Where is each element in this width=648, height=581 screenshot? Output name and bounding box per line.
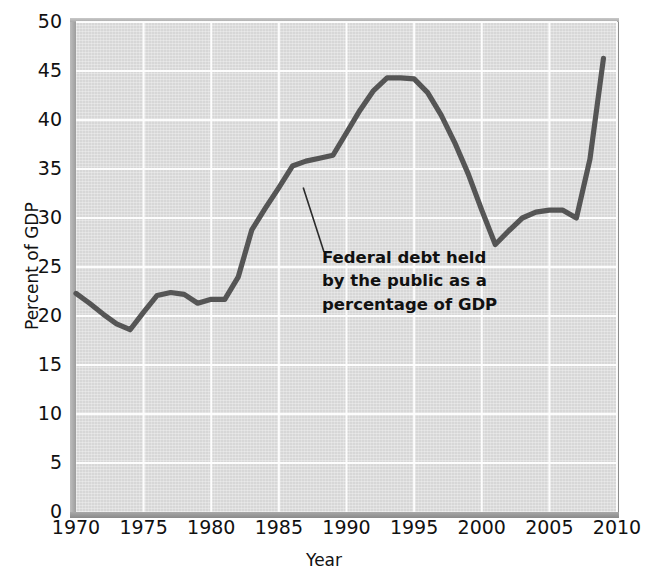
y-tick-label: 40 bbox=[0, 110, 62, 129]
x-tick-label: 2010 bbox=[577, 518, 648, 537]
chart-figure: 50454035302520151050 1970197519801985199… bbox=[0, 0, 648, 581]
annotation-line-2: by the public as a bbox=[322, 269, 537, 292]
y-tick-label: 10 bbox=[0, 404, 62, 423]
annotation-leader-line bbox=[303, 188, 324, 252]
x-axis-label: Year bbox=[0, 550, 648, 570]
y-axis-label: Percent of GDP bbox=[22, 202, 42, 330]
y-tick-label: 50 bbox=[0, 12, 62, 31]
y-tick-label: 35 bbox=[0, 159, 62, 178]
annotation-line-1: Federal debt held bbox=[322, 246, 537, 269]
y-tick-label: 45 bbox=[0, 61, 62, 80]
y-tick-label: 15 bbox=[0, 355, 62, 374]
title-remnant bbox=[150, 0, 620, 6]
annotation-line-3: percentage of GDP bbox=[322, 293, 537, 316]
y-tick-label: 5 bbox=[0, 453, 62, 472]
chart-annotation: Federal debt held by the public as a per… bbox=[322, 246, 537, 316]
